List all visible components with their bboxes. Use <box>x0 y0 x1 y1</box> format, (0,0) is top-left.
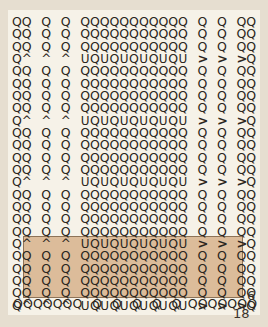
stitch-grid: QQQQQQQQQQQQQQQQQQQQQQQQQQQQQQQQQQQQQQQQ… <box>12 16 256 312</box>
stitch-chart-page: QQQQQQQQQQQQQQQQQQQQQQQQQQQQQQQQQQQQQQQQ… <box>0 0 268 327</box>
chain-stitch-symbol: Q <box>111 298 123 311</box>
row-count-label: 6 <box>247 288 255 303</box>
paper-edge-right <box>260 0 268 327</box>
chain-stitch-symbol: Q <box>91 298 103 311</box>
chain-stitch-symbol: Q <box>151 298 163 311</box>
chain-stitch-symbol: Q <box>139 102 149 115</box>
stitch-count-label: 18 <box>233 306 250 321</box>
chain-stitch-symbol: Q <box>119 102 129 115</box>
chain-stitch-symbol: Q <box>100 102 110 115</box>
chain-stitch-symbol: Q <box>61 102 71 115</box>
chain-stitch-symbol: Q <box>158 102 168 115</box>
chain-stitch-symbol: Q <box>22 102 32 115</box>
chain-stitch-symbol: Q <box>170 298 182 311</box>
paper-edge-left <box>0 0 8 327</box>
chain-stitch-symbol: Q <box>178 102 188 115</box>
chain-stitch-symbol: Q <box>80 102 90 115</box>
foundation-chain-row: QQQQQQQQQQQQQQQQQQQ <box>12 298 256 312</box>
paper-edge-bottom <box>0 315 268 327</box>
chain-stitch-symbol: Q <box>71 298 83 311</box>
chain-stitch-symbol: Q <box>131 298 143 311</box>
chain-stitch-symbol: Q <box>41 102 51 115</box>
paper-edge-top <box>0 0 268 10</box>
